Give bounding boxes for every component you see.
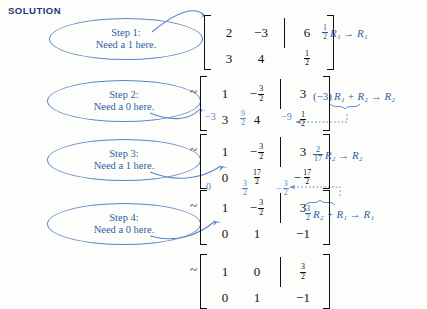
callout-step-3: Step 3: Need a 1 here. [47, 139, 201, 181]
cell-r1c2: 0 [254, 264, 261, 281]
cell-r1c1: 1 [222, 86, 229, 103]
callout-step-1: Step 1: Need a 1 here. [49, 18, 203, 60]
augment-divider [280, 79, 281, 109]
cell-r2aug: − 17 2 [294, 169, 312, 186]
callout-step-4-text: Need a 0 here. [94, 224, 155, 236]
callout-step-2-title: Step 2: [109, 89, 138, 101]
cell-r1aug: 3 [300, 144, 307, 161]
cell-r2c2: 1 [254, 225, 261, 242]
brace-step2 [330, 104, 360, 109]
matrix-grid: 1 0 3 2 0 1 −1 [207, 254, 323, 309]
callout-step-3-title: Step 3: [109, 148, 138, 160]
row-op-4-text: R₂ + R₁ → R₁ [313, 208, 374, 220]
fraction-one-half: 1 2 [304, 50, 310, 67]
bracket-right [323, 76, 330, 131]
cell-r2c2: 1 [254, 289, 261, 306]
cell-r2c1: 0 [222, 289, 229, 306]
row-op-2-prefix: (−3) [313, 90, 332, 102]
augment-divider [280, 193, 281, 223]
cell-r1c2: −3 [254, 25, 268, 42]
callout-step-3-text: Need a 1 here. [94, 160, 155, 172]
tilde-3: ~ [190, 198, 197, 214]
cell-r2aug: 1 2 [304, 50, 310, 67]
augmented-matrix-initial: 2 −3 6 3 4 1 2 [204, 15, 334, 70]
matrix-grid: 2 −3 6 3 4 1 2 [211, 15, 327, 70]
cell-r2aug: −1 [296, 225, 310, 242]
cell-r2aug: −1 [296, 289, 310, 306]
cell-r1c1: 1 [222, 264, 229, 281]
cell-r1c1: 1 [222, 144, 229, 161]
tilde-1: ~ [190, 84, 197, 100]
bracket-left [200, 254, 207, 309]
cell-r1c2: − 3 2 [250, 143, 264, 160]
cell-r1c2: − 3 2 [250, 85, 264, 102]
cell-r2c1: 0 [222, 169, 229, 186]
cell-r1c1: 1 [222, 200, 229, 217]
callout-step-4-title: Step 4: [109, 212, 138, 224]
cell-r2c1: 3 [226, 50, 233, 67]
row-op-4: 3 2 R₂ + R₁ → R₁ [305, 205, 374, 222]
cell-r2c2: 17 2 [252, 169, 262, 186]
cell-r1c1: 2 [226, 25, 233, 42]
cell-r1aug: 3 2 [300, 263, 306, 280]
cell-r2aug: 1 2 [300, 111, 306, 128]
row-op-2-text: R₁ + R₂ → R₂ [334, 90, 395, 102]
cell-r2c2: 4 [258, 50, 265, 67]
callout-step-1-text: Need a 1 here. [96, 39, 157, 51]
row-op-1: 1 2 R₁ → R₁ [322, 24, 368, 41]
annotation-step2-aug: −9 [281, 111, 292, 122]
augmented-matrix-step2: 1 − 3 2 3 0 17 2 − [200, 134, 330, 189]
augment-divider [280, 257, 281, 287]
tilde-4: ~ [190, 262, 197, 278]
row-op-1-text: R₁ → R₁ [330, 27, 368, 39]
cell-r2c1: 3 [222, 111, 229, 128]
cell-r2c2: 4 [254, 111, 261, 128]
coefficient-fraction: 1 2 [322, 24, 328, 41]
matrix-grid: 1 − 3 2 3 0 17 2 − [207, 134, 323, 189]
callout-step-4: Step 4: Need a 0 here. [47, 203, 201, 245]
augment-divider [280, 137, 281, 167]
cell-r2c1: 0 [222, 225, 229, 242]
cell-r1aug: 6 [304, 25, 311, 42]
bracket-left [200, 76, 207, 131]
annotation-step2-col1: −3 [205, 111, 216, 122]
cell-r1aug: 3 [300, 86, 307, 103]
bracket-left [204, 15, 211, 70]
row-op-3-text: R₂ → R₂ [325, 149, 363, 161]
callout-step-2-text: Need a 0 here. [94, 101, 155, 113]
callout-step-1-title: Step 1: [111, 27, 140, 39]
tilde-2: ~ [190, 142, 197, 158]
row-op-3: 2 17 R₂ → R₂ [313, 146, 363, 163]
bracket-right [323, 254, 330, 309]
augmented-matrix-final: 1 0 3 2 0 1 −1 [200, 254, 330, 309]
augmented-matrix-step1: 1 − 3 2 3 3 4 1 2 [200, 76, 330, 131]
annotation-step2-col2: 9 2 [240, 110, 246, 127]
cell-r1c2: − 3 2 [250, 199, 264, 216]
page-title: SOLUTION [8, 5, 61, 16]
matrix-grid: 1 − 3 2 3 3 4 1 2 [207, 76, 323, 131]
coefficient-fraction: 2 17 [313, 146, 323, 163]
augment-divider [284, 18, 285, 48]
coefficient-fraction: 3 2 [305, 205, 311, 222]
row-op-2: (−3) R₁ + R₂ → R₂ [313, 90, 395, 102]
bracket-left [200, 190, 207, 245]
callout-step-2: Step 2: Need a 0 here. [47, 80, 201, 122]
